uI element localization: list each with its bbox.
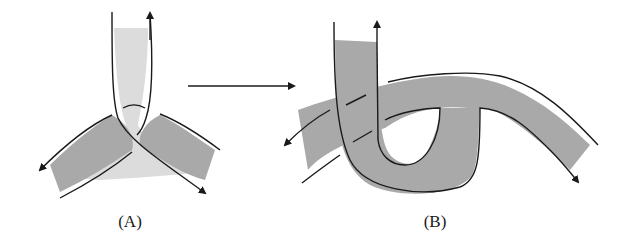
ribbon-diagram xyxy=(0,0,630,252)
panel-a-label: (A) xyxy=(100,212,160,232)
panel-b xyxy=(285,22,598,194)
panel-a xyxy=(40,12,220,198)
panel-b-label: (B) xyxy=(405,212,465,232)
figure-canvas: (A) (B) xyxy=(0,0,630,252)
